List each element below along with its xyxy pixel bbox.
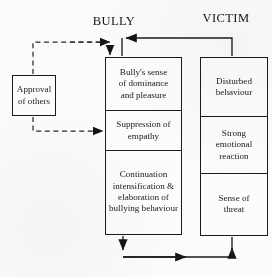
cell-line-1: Continuation: [120, 169, 168, 179]
diagram-canvas: BULLY VICTIM: [0, 0, 272, 277]
cell-line-3: reaction: [219, 151, 248, 161]
cell-disturbed-behaviour: Disturbed behaviour: [201, 58, 267, 117]
box-approval-of-others: Approval of others: [12, 75, 56, 116]
victim-column: Disturbed behaviour Strong emotional rea…: [200, 57, 268, 236]
cell-line-1: Strong: [222, 128, 246, 138]
cell-line-1: Sense of: [218, 193, 249, 203]
bully-column: Bully's sense of dominance and pleasure …: [105, 57, 182, 235]
cell-line-2: threat: [224, 204, 245, 214]
column-title-victim: VICTIM: [186, 11, 266, 26]
cell-bullys-sense-of-dominance: Bully's sense of dominance and pleasure: [106, 58, 181, 111]
cell-line-3: and pleasure: [121, 90, 167, 100]
approval-line-1: Approval: [17, 84, 51, 94]
cell-strong-emotional-reaction: Strong emotional reaction: [201, 117, 267, 174]
connector-victim-to-bully: [122, 38, 232, 56]
approval-line-2: of others: [18, 96, 50, 106]
cell-line-2: behaviour: [216, 87, 252, 97]
cell-line-3: elaboration of: [118, 192, 169, 202]
cell-sense-of-threat: Sense of threat: [201, 174, 267, 234]
connector-approval-to-suppression: [33, 117, 103, 131]
cell-suppression-of-empathy: Suppression of empathy: [106, 111, 181, 151]
cell-line-2: of dominance: [119, 78, 169, 88]
cell-line-1: Bully's sense: [120, 67, 167, 77]
box-approval-of-others-label: Approval of others: [17, 84, 51, 106]
cell-line-1: Suppression of: [116, 119, 170, 129]
cell-line-1: Disturbed: [216, 76, 252, 86]
column-title-bully: BULLY: [74, 14, 154, 29]
cell-continuation-of-bullying: Continuation intensification & elaborati…: [106, 151, 181, 233]
connector-approval-to-dominance: [33, 42, 110, 74]
cell-line-2: intensification &: [113, 181, 174, 191]
connector-bully-to-victim: [123, 236, 232, 257]
cell-line-4: bullying behaviour: [109, 203, 178, 213]
cell-line-2: emotional: [216, 139, 252, 149]
cell-line-2: empathy: [128, 131, 159, 141]
